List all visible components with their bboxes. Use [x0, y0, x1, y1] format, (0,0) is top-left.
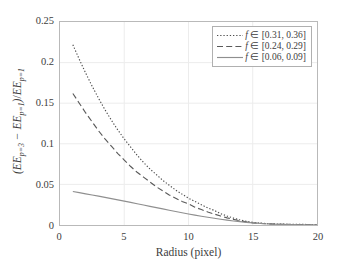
legend-line-sample [216, 52, 244, 63]
legend-line-sample [216, 41, 244, 52]
legend-item: f ∈ [0.24, 0.29] [216, 41, 307, 52]
curve-series-2 [73, 192, 317, 225]
figure-chart: 00.050.10.150.20.25 05101520 Radius (pix… [0, 0, 340, 274]
x-tick-label: 5 [121, 232, 126, 243]
y-tick-label: 0.25 [36, 16, 54, 27]
legend-label: f ∈ [0.31, 0.36] [244, 30, 307, 41]
curve-series-1 [73, 93, 317, 224]
legend-item: f ∈ [0.31, 0.36] [216, 30, 307, 41]
legend-item: f ∈ [0.06, 0.09] [216, 52, 307, 63]
x-tick-label: 20 [313, 232, 324, 243]
y-tick-label: 0.05 [36, 180, 54, 191]
x-tick-label: 15 [248, 232, 259, 243]
x-axis-label: Radius (pixel) [59, 246, 318, 258]
y-tick-label: 0.2 [41, 57, 54, 68]
x-axis-tick-labels: 05101520 [0, 232, 340, 246]
x-tick-label: 0 [56, 232, 61, 243]
legend-line-sample [216, 30, 244, 41]
y-tick-label: 0.15 [36, 98, 54, 109]
x-tick-label: 10 [183, 232, 194, 243]
curve-series-0 [73, 45, 317, 225]
y-axis-label: (EEp=3 − EEp=1)/EEp=1 [11, 19, 25, 224]
y-tick-label: 0.1 [41, 139, 54, 150]
y-tick-label: 0 [49, 221, 54, 232]
legend: f ∈ [0.31, 0.36]f ∈ [0.24, 0.29]f ∈ [0.0… [212, 26, 312, 67]
legend-label: f ∈ [0.24, 0.29] [244, 41, 307, 52]
legend-label: f ∈ [0.06, 0.09] [244, 52, 307, 63]
